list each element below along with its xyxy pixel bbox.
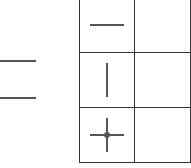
table-symbols <box>0 0 191 168</box>
crosshair-point-icon <box>90 118 124 152</box>
